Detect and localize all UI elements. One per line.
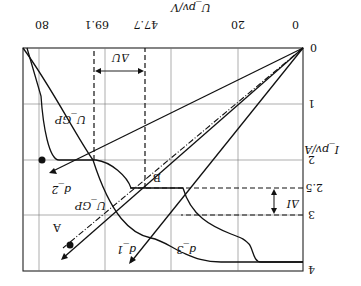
ugp-label-bottom: U_GP <box>74 199 106 212</box>
line-d1 <box>63 48 303 258</box>
line-d3 <box>131 48 303 262</box>
point-a-label: A <box>52 221 62 234</box>
delta-u-label: ΔU <box>111 51 130 64</box>
d1-label: d_1 <box>116 243 136 256</box>
line-d2 <box>51 48 303 172</box>
delta-i-label: ΔI <box>286 197 300 210</box>
y-axis-label: I_pv/A <box>304 143 340 156</box>
y-tick-4: 4 <box>308 263 315 276</box>
ugp-label-top: U_GP <box>54 113 86 126</box>
point-b-label: B <box>153 171 161 184</box>
x-axis-label: U_pv/V <box>170 1 211 14</box>
point-a <box>67 242 74 249</box>
origin-label: 0 <box>310 41 317 54</box>
x-tick-0: 0 <box>292 18 299 31</box>
pv-iv-diagram: U_pv/V 0 20 47.7 69.1 80 0 1 2 2.5 3 4 I… <box>0 0 361 286</box>
point-b-marker <box>39 157 46 164</box>
x-tick-80: 80 <box>35 18 49 31</box>
d2-label: d_2 <box>51 183 71 196</box>
x-tick-20: 20 <box>231 18 245 31</box>
x-tick-691: 69.1 <box>85 18 110 31</box>
x-tick-477: 47.7 <box>134 18 159 31</box>
y-tick-1: 1 <box>308 97 315 110</box>
y-tick-25: 2.5 <box>306 181 324 194</box>
iv-curve-upper <box>27 48 303 262</box>
d3-label: d_3 <box>176 243 196 256</box>
y-tick-3: 3 <box>308 208 315 221</box>
